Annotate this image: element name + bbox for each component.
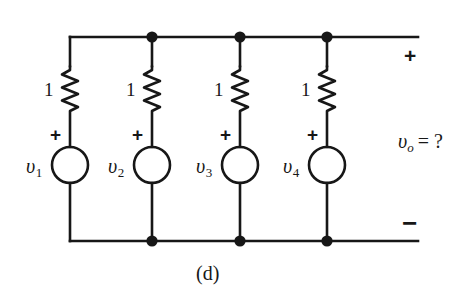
source-symbol-1: υ xyxy=(26,155,35,177)
polarity-plus-3: + xyxy=(220,125,231,144)
source-label-4: υ4 xyxy=(283,156,299,179)
polarity-plus-1: + xyxy=(50,125,61,144)
source-label-2: υ2 xyxy=(108,156,124,179)
resistor-label-2: 1 xyxy=(126,80,136,99)
branch-2-resistor xyxy=(144,66,160,147)
source-subscript-2: 2 xyxy=(117,165,124,180)
output-terminal-minus: − xyxy=(402,210,417,236)
junction-dot-bottom-4 xyxy=(321,235,332,246)
junction-dot-top-2 xyxy=(146,31,157,42)
output-voltage-equals-query: = ? xyxy=(414,130,443,152)
source-label-1: υ1 xyxy=(26,156,42,179)
resistor-label-1: 1 xyxy=(44,80,54,99)
source-subscript-4: 4 xyxy=(292,165,299,180)
resistor-label-4: 1 xyxy=(301,80,311,99)
source-subscript-3: 3 xyxy=(205,165,212,180)
branch-2-source-circle xyxy=(134,147,170,183)
polarity-plus-4: + xyxy=(307,125,318,144)
source-symbol-4: υ xyxy=(283,155,292,177)
output-voltage-symbol: υ xyxy=(398,130,407,152)
polarity-plus-2: + xyxy=(132,125,143,144)
source-symbol-2: υ xyxy=(108,155,117,177)
branch-4-source-circle xyxy=(309,147,345,183)
source-subscript-1: 1 xyxy=(35,165,42,180)
junction-dot-top-3 xyxy=(234,31,245,42)
branch-1-resistor xyxy=(62,66,78,147)
output-terminal-plus: + xyxy=(404,45,416,66)
branch-3-resistor xyxy=(232,66,248,147)
figure-caption: (d) xyxy=(196,263,219,283)
output-voltage-expression: υo= ? xyxy=(398,131,443,154)
branch-3-source-circle xyxy=(222,147,258,183)
circuit-figure: 1 1 1 1 + + + + υ1 υ2 υ3 υ4 + υo= ? − (d… xyxy=(0,0,476,301)
output-voltage-subscript: o xyxy=(407,140,414,155)
resistor-label-3: 1 xyxy=(214,80,224,99)
junction-dot-top-4 xyxy=(321,31,332,42)
source-symbol-3: υ xyxy=(196,155,205,177)
junction-dot-bottom-3 xyxy=(234,235,245,246)
junction-dot-bottom-2 xyxy=(146,235,157,246)
source-label-3: υ3 xyxy=(196,156,212,179)
branch-1-source-circle xyxy=(52,147,88,183)
branch-4-resistor xyxy=(319,66,335,147)
